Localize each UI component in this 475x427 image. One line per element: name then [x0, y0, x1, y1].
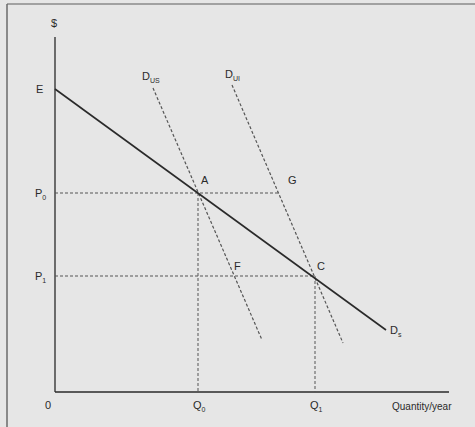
frame-background: [0, 0, 475, 427]
point-f: F: [234, 260, 241, 272]
point-g: G: [288, 174, 297, 186]
point-c: C: [317, 260, 325, 272]
y-axis-label: $: [51, 17, 57, 29]
label-origin: 0: [45, 399, 51, 411]
point-a: A: [201, 174, 209, 186]
demand-diagram: $ E P0 P1 0 Q0 Q1 Quantity/year DUS DUI …: [0, 0, 475, 427]
x-axis-label: Quantity/year: [392, 401, 452, 412]
label-e: E: [36, 83, 43, 95]
